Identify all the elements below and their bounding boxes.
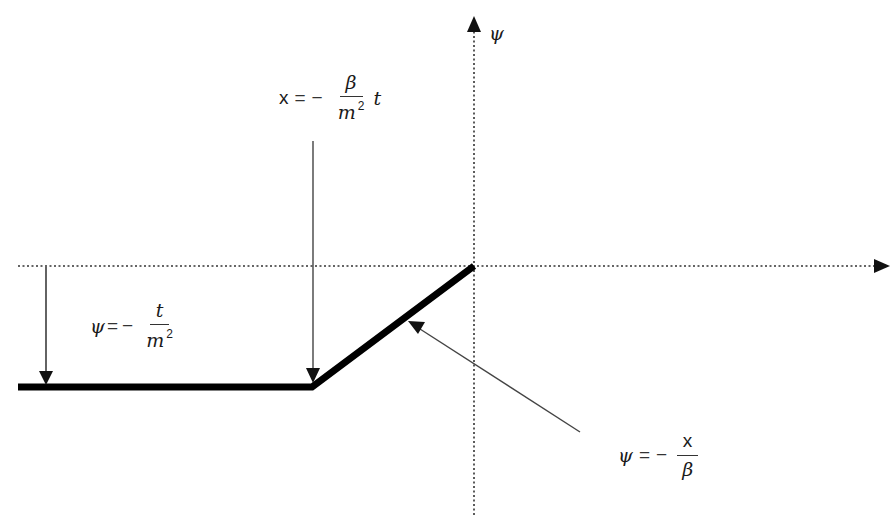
breakpoint-equation: x = − β m2 t (279, 72, 381, 124)
level-equation: ψ = − t m2 (90, 300, 182, 352)
breakpoint-lhs: x (279, 87, 289, 109)
diagram-canvas (0, 0, 896, 529)
equals-sign: = (295, 87, 306, 109)
level-lhs: ψ (90, 315, 105, 337)
y-axis-label: ψ (489, 22, 504, 44)
fraction-denominator: m2 (140, 325, 179, 352)
slope-arrow (420, 329, 580, 432)
slope-fraction: x β (676, 431, 699, 480)
fraction-numerator: x (677, 431, 699, 456)
equals-sign: = (107, 315, 118, 337)
minus-sign: − (312, 87, 323, 109)
fraction-denominator: β (676, 456, 699, 480)
y-axis-arrow-icon (467, 16, 481, 32)
slope-arrow-head-icon (408, 321, 425, 334)
breakpoint-fraction: β m2 (332, 72, 371, 124)
fraction-numerator: β (340, 72, 363, 97)
level-fraction: t m2 (140, 300, 179, 352)
psi-curve (18, 266, 474, 387)
fraction-numerator: t (150, 300, 170, 325)
slope-equation: ψ = − x β (618, 431, 702, 480)
level-arrow-head-icon (39, 371, 53, 385)
fraction-denominator: m2 (332, 97, 371, 124)
minus-sign: − (656, 444, 667, 466)
slope-lhs: ψ (618, 444, 633, 466)
x-axis-arrow-icon (874, 259, 890, 273)
equals-sign: = (639, 444, 650, 466)
minus-sign: − (122, 315, 133, 337)
breakpoint-suffix: t (373, 87, 381, 109)
